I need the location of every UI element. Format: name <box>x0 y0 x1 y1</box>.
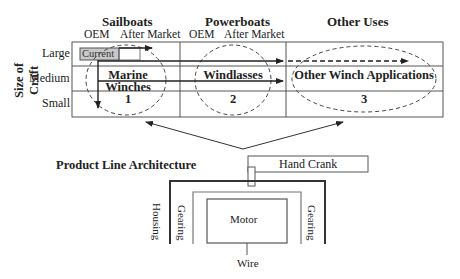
subcolumn-sailboats-aftermarket: After Market <box>120 28 180 40</box>
subcolumn-powerboats-aftermarket: After Market <box>224 28 284 40</box>
segment-2-label: Windlasses <box>195 68 271 83</box>
segment-3-label: Other Winch Applications <box>290 68 438 83</box>
diagram-graphics <box>0 0 460 279</box>
row-label-small: Small <box>42 96 70 111</box>
subcolumn-sailboats-oem: OEM <box>84 28 110 40</box>
subcolumn-powerboats-oem: OEM <box>189 28 215 40</box>
wire-label: Wire <box>237 257 259 269</box>
column-header-other-uses: Other Uses <box>327 14 389 30</box>
segment-2-number: 2 <box>195 92 271 107</box>
segment-1-number: 1 <box>100 92 156 107</box>
architecture-title: Product Line Architecture <box>56 158 196 173</box>
current-label: Current <box>82 48 114 59</box>
architecture-graphics <box>170 156 368 255</box>
housing-label: Housing <box>151 203 163 240</box>
gearing-right-label: Gearing <box>306 205 318 240</box>
segment-3-number: 3 <box>290 92 438 107</box>
motor-label: Motor <box>230 213 258 225</box>
row-label-medium: Medium <box>29 71 70 86</box>
gearing-left-label: Gearing <box>176 205 188 240</box>
hand-crank-label: Hand Crank <box>279 157 337 172</box>
row-label-large: Large <box>42 46 70 61</box>
